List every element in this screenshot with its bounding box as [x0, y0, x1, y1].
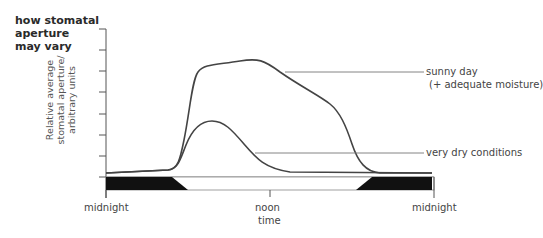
dry-conditions-label: very dry conditions [426, 147, 522, 159]
x-tick-label-midnight-end: midnight [412, 202, 457, 214]
y-label-line: stomatal aperture/ [55, 20, 66, 180]
y-label-line: Relative average [44, 20, 55, 180]
x-tick-label-midnight-start: midnight [84, 202, 129, 214]
y-ticks [99, 29, 106, 177]
y-axis-label: Relative average stomatal aperture/ arbi… [44, 20, 77, 180]
x-tick-label-noon: noon [255, 202, 280, 214]
sunny-day-curve [106, 60, 432, 173]
y-label-line: arbitrary units [66, 20, 77, 180]
dry-conditions-curve [106, 121, 432, 173]
sunny-day-sublabel: (+ adequate moisture) [429, 79, 543, 91]
sunny-day-label: sunny day [426, 66, 478, 78]
x-axis-label: time [258, 215, 281, 227]
